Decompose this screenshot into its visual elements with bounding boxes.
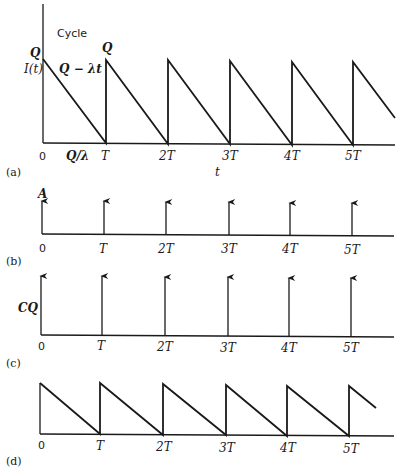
spike-label-CQ: CQ <box>18 301 39 315</box>
tick-T: T <box>101 149 110 163</box>
tick-3T: 3T <box>219 441 236 455</box>
panel-label-d: (d) <box>6 455 22 467</box>
holding-cost-sawtooth <box>40 383 376 436</box>
x-axis-label: t <box>215 165 220 179</box>
tick-3T: 3T <box>221 242 238 256</box>
tick-4T: 4T <box>283 149 301 163</box>
tick-0: 0 <box>38 340 45 353</box>
inventory-cycle-figure: Cycle Q Q I(t) Q − λt 0 Q/λ T 2T 3T 4T 5… <box>0 0 405 467</box>
tick-0: 0 <box>38 439 45 452</box>
tick-5T: 5T <box>344 243 361 257</box>
slope-label: Q − λt <box>59 62 102 76</box>
x-axis <box>43 143 395 145</box>
panel-label-b: (b) <box>6 255 22 268</box>
panel-c: CQ 0 T 2T 3T 4T 5T (c) <box>6 276 394 370</box>
panel-d: 0 T 2T 3T 4T 5T (d) <box>6 383 394 467</box>
depletion-label: Q/λ <box>66 149 89 163</box>
cycle-label: Cycle <box>57 27 87 40</box>
tick-0: 0 <box>39 150 46 163</box>
panel-a: Cycle Q Q I(t) Q − λt 0 Q/λ T 2T 3T 4T 5… <box>6 4 395 179</box>
tick-T: T <box>96 439 105 453</box>
tick-5T: 5T <box>345 149 362 163</box>
peak-label-T: Q <box>102 41 113 55</box>
panel-label-c: (c) <box>6 357 21 370</box>
tick-5T: 5T <box>343 442 360 456</box>
x-axis <box>40 434 394 436</box>
tick-T: T <box>99 242 108 256</box>
tick-4T: 4T <box>279 441 297 455</box>
tick-T: T <box>97 339 106 353</box>
panel-label-a: (a) <box>6 166 21 179</box>
tick-4T: 4T <box>280 341 298 355</box>
spike-label-A: A <box>37 187 47 201</box>
panel-b: A 0 T 2T 3T 4T 5T (b) <box>6 187 394 268</box>
tick-4T: 4T <box>281 242 299 256</box>
x-axis <box>41 335 394 337</box>
y-axis-label: I(t) <box>23 62 43 76</box>
tick-2T: 2T <box>158 149 176 163</box>
x-axis <box>42 234 394 236</box>
tick-2T: 2T <box>155 440 173 454</box>
tick-3T: 3T <box>222 149 239 163</box>
tick-5T: 5T <box>343 341 360 355</box>
tick-2T: 2T <box>157 242 175 256</box>
tick-2T: 2T <box>156 340 174 354</box>
tick-3T: 3T <box>220 341 237 355</box>
peak-label-axis: Q <box>30 46 41 60</box>
tick-0: 0 <box>39 242 46 255</box>
